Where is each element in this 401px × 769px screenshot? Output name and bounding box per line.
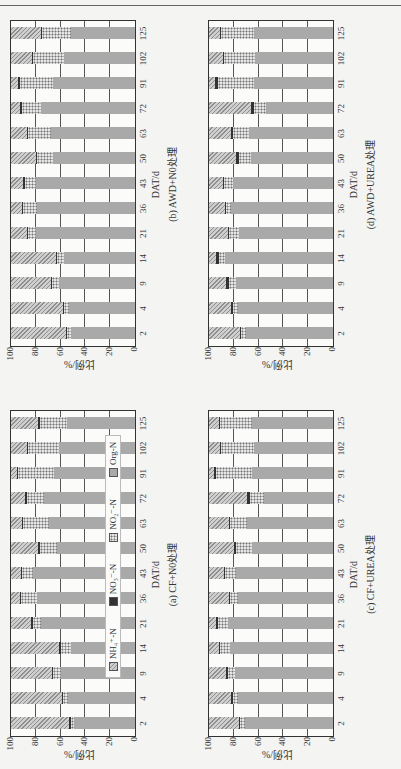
- bar-segment-no2: [218, 78, 254, 90]
- x-tick-label: 36: [336, 204, 346, 213]
- bar-segment-nh4: [11, 718, 69, 730]
- bar-segment-org: [68, 693, 135, 705]
- bar-segment-no2: [22, 568, 33, 580]
- x-tick-label: 63: [336, 519, 346, 528]
- bar-segment-nh4: [11, 543, 38, 555]
- x-tick-label: 36: [336, 594, 346, 603]
- x-tick-label: 2: [138, 721, 148, 726]
- y-tick-label: 0: [129, 737, 139, 763]
- bar-segment-no2: [230, 593, 237, 605]
- bar-segment-org: [59, 443, 135, 455]
- bar-segment-nh4: [209, 278, 226, 290]
- stacked-bar: [209, 278, 333, 290]
- x-tick-label: 14: [336, 644, 346, 653]
- stacked-bar: [11, 203, 135, 215]
- stacked-bar: [209, 468, 333, 480]
- bar-segment-nh4: [11, 253, 56, 265]
- stacked-bar: [11, 328, 135, 340]
- stacked-bar: [11, 693, 135, 705]
- stacked-bar: [209, 28, 333, 40]
- bar-segment-org: [238, 593, 333, 605]
- bar-segment-no2: [27, 493, 44, 505]
- x-tick-label: 21: [138, 229, 148, 238]
- bar-segment-nh4: [209, 443, 220, 455]
- bar-segment-nh4: [11, 278, 51, 290]
- bar-segment-no2: [239, 153, 251, 165]
- bar-segment-no2: [61, 643, 71, 655]
- stacked-bar: [11, 228, 135, 240]
- x-tick-label: 91: [138, 469, 148, 478]
- x-axis-label: DAT/d: [348, 382, 359, 767]
- x-tick-label: 36: [138, 594, 148, 603]
- bar-segment-nh4: [209, 593, 229, 605]
- stacked-bar: [11, 28, 135, 40]
- bar-segment-org: [53, 153, 135, 165]
- bar-segment-nh4: [11, 28, 41, 40]
- bar-segment-no2: [37, 153, 53, 165]
- x-tick-label: 50: [138, 544, 148, 553]
- bar-segment-nh4: [209, 203, 225, 215]
- stacked-bar: [11, 178, 135, 190]
- x-tick-label: 2: [138, 331, 148, 336]
- bar-segment-org: [228, 618, 333, 630]
- bar-segment-no2: [33, 53, 64, 65]
- bar-segment-nh4: [209, 518, 229, 530]
- panel-c: 0204060801002491421364350637291102125比例/…: [200, 395, 378, 767]
- bar-segment-org: [266, 103, 333, 115]
- x-tick-label: 9: [336, 281, 346, 286]
- y-tick-label: 80: [30, 737, 40, 763]
- stacked-bar: [11, 103, 135, 115]
- stacked-bar: [11, 278, 135, 290]
- x-tick-label: 36: [138, 204, 148, 213]
- bar-segment-nh4: [11, 643, 59, 655]
- y-axis-label: 比例/%: [64, 358, 95, 373]
- x-tick-label: 91: [336, 469, 346, 478]
- y-tick-label: 80: [228, 737, 238, 763]
- bar-segment-org: [64, 253, 135, 265]
- bar-segment-org: [249, 128, 333, 140]
- x-tick-label: 50: [336, 544, 346, 553]
- bar-segment-org: [246, 328, 333, 340]
- panel-caption: (d) AWD+UREA处理: [362, 0, 377, 377]
- y-axis-label: 比例/%: [64, 748, 95, 763]
- stacked-bar: [209, 543, 333, 555]
- bar-segment-no2: [21, 593, 37, 605]
- x-tick-label: 4: [336, 696, 346, 701]
- bar-segment-org: [74, 718, 135, 730]
- x-tick-label: 43: [138, 569, 148, 578]
- stacked-bar: [209, 718, 333, 730]
- panel-a: NH₄⁺-NNO₃⁻-NNO₂⁻-NOrg-N02040608010024914…: [2, 395, 180, 767]
- bar-segment-no2: [254, 103, 266, 115]
- bar-segment-nh4: [209, 568, 224, 580]
- bar-segment-org: [61, 668, 135, 680]
- y-tick-label: 0: [327, 347, 337, 373]
- bar-segment-org: [230, 643, 333, 655]
- stacked-bar: [209, 443, 333, 455]
- x-axis-label: DAT/d: [348, 0, 359, 377]
- y-tick-label: 20: [104, 347, 114, 373]
- bar-segment-org: [59, 278, 135, 290]
- bar-segment-nh4: [209, 178, 223, 190]
- x-tick-label: 9: [336, 671, 346, 676]
- bar-segment-org: [53, 78, 135, 90]
- bar-segment-org: [233, 178, 333, 190]
- plot-area: [10, 20, 136, 347]
- bar-segment-org: [231, 203, 333, 215]
- x-tick-label: 14: [138, 644, 148, 653]
- bar-segment-org: [44, 493, 135, 505]
- bar-segment-org: [67, 418, 135, 430]
- x-tick-label: 9: [138, 671, 148, 676]
- stacked-bar: [11, 53, 135, 65]
- bar-segment-org: [69, 303, 135, 315]
- bar-segment-no2: [40, 418, 67, 430]
- stacked-bar: [209, 303, 333, 315]
- x-tick-label: 72: [138, 494, 148, 503]
- bar-segment-no2: [20, 78, 53, 90]
- plot-area: [208, 20, 334, 347]
- x-tick-label: 2: [336, 721, 346, 726]
- bar-segment-org: [49, 518, 135, 530]
- bar-segment-nh4: [209, 693, 231, 705]
- legend-item-nh4: NH₄⁺-N: [108, 628, 118, 671]
- bar-segment-org: [51, 128, 135, 140]
- x-tick-label: 72: [138, 104, 148, 113]
